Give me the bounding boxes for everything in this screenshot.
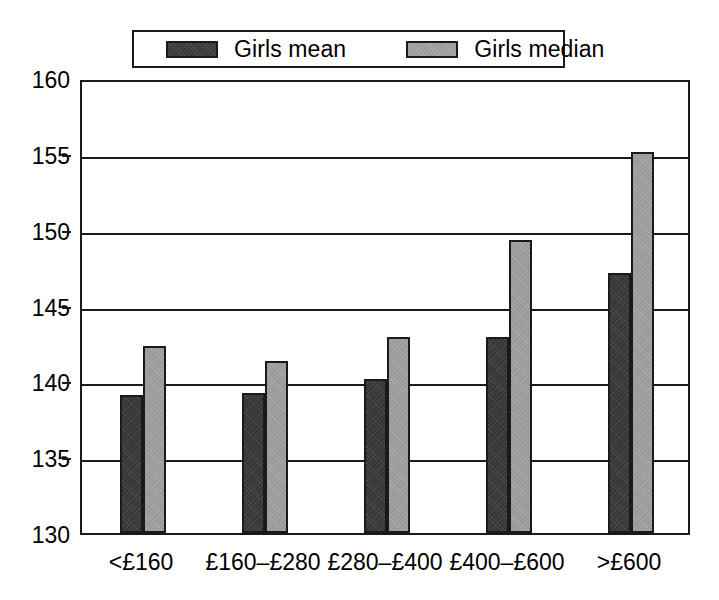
x-tick-label-3: £400–£600 [449,549,564,576]
gridline-145 [82,309,688,311]
y-axis: 130135140145150155160 [10,0,70,600]
x-tick-label-0: <£160 [109,549,174,576]
y-tick-label-140: 140 [10,370,70,397]
bar-mean-4 [608,273,631,533]
y-tick-mark-140 [62,382,71,384]
bar-median-4 [631,152,654,533]
bar-median-3 [509,240,532,533]
bar-median-0 [143,346,166,533]
bar-mean-0 [120,395,143,534]
y-tick-mark-155 [62,155,71,157]
bar-median-2 [387,337,410,533]
plot-area [80,80,690,535]
y-tick-label-135: 135 [10,446,70,473]
bar-median-1 [265,361,288,533]
y-tick-mark-145 [62,307,71,309]
legend-entry-girls-mean: Girls mean [166,32,346,66]
y-tick-label-155: 155 [10,142,70,169]
bar-mean-2 [364,379,387,533]
bar-chart-figure: Girls mean Girls median 1301351401451501… [0,0,719,600]
legend-label-girls-median: Girls median [474,36,604,63]
legend-label-girls-mean: Girls mean [234,36,346,63]
legend-entry-girls-median: Girls median [406,32,604,66]
x-tick-label-2: £280–£400 [327,549,442,576]
gridline-150 [82,233,688,235]
chart-legend: Girls mean Girls median [132,30,565,68]
y-tick-label-145: 145 [10,294,70,321]
plot-inner [82,82,688,533]
y-tick-label-150: 150 [10,218,70,245]
legend-swatch-icon-girls-mean [166,41,218,58]
y-tick-mark-150 [62,231,71,233]
legend-swatch-icon-girls-median [406,41,458,58]
gridline-155 [82,157,688,159]
bar-mean-1 [242,393,265,533]
x-tick-label-1: £160–£280 [205,549,320,576]
y-tick-label-160: 160 [10,67,70,94]
y-tick-label-130: 130 [10,522,70,549]
bar-mean-3 [486,337,509,533]
y-tick-mark-135 [62,458,71,460]
x-tick-label-4: >£600 [597,549,662,576]
